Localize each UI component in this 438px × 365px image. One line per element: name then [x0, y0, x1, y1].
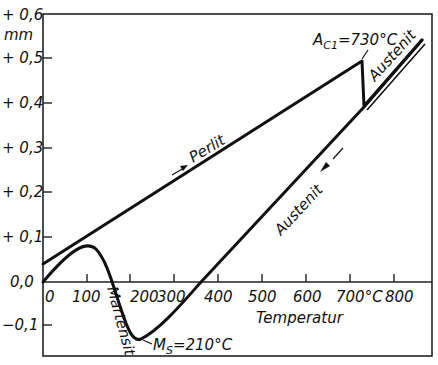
y-tick-label: −0,1 — [2, 316, 38, 334]
dilatometer-chart: + 0,6 mm + 0,5 + 0,4 + 0,3 + 0,2 + 0,1 0… — [0, 0, 438, 365]
y-ticks — [43, 58, 52, 325]
x-tick-label: 500 — [248, 288, 277, 306]
svg-text:MS=210°C: MS=210°C — [153, 336, 233, 357]
austenit-cooling-label-group: Austenit — [270, 148, 343, 239]
x-tick-label: 700°C — [336, 288, 383, 306]
y-tick-label: + 0,3 — [2, 139, 43, 157]
x-tick-label: 600 — [293, 288, 322, 306]
y-tick-label: 0,0 — [10, 273, 34, 291]
x-axis-title: Temperatur — [256, 309, 344, 327]
y-tick-labels: + 0,6 mm + 0,5 + 0,4 + 0,3 + 0,2 + 0,1 0… — [2, 6, 43, 334]
x-tick-label: 0 — [45, 288, 55, 306]
y-tick-label: + 0,1 — [2, 228, 43, 246]
ms-annotation: MS=210°C — [143, 336, 233, 357]
x-tick-label: 400 — [204, 288, 233, 306]
x-tick-label: 800 — [385, 288, 414, 306]
x-tick-labels: 0 100 200 300 400 500 600 700°C 800 — [45, 288, 414, 306]
x-ticks — [87, 274, 394, 282]
x-tick-label: 200 — [130, 288, 159, 306]
y-tick-label: + 0,6 — [2, 6, 43, 24]
x-tick-label: 100 — [72, 288, 101, 306]
svg-text:Austenit: Austenit — [270, 180, 327, 239]
y-tick-label: + 0,5 — [2, 49, 43, 67]
arrow-left-icon — [320, 162, 330, 172]
y-tick-label: + 0,4 — [2, 94, 43, 112]
y-tick-label: + 0,2 — [2, 183, 43, 201]
y-unit-label: mm — [4, 26, 33, 44]
